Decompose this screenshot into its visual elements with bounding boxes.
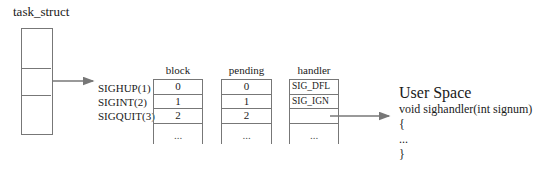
task-struct-box: [21, 28, 53, 135]
handler-cell-ellipsis: ...: [290, 123, 338, 144]
handler-cell: SIG_DFL: [290, 79, 338, 94]
handler-header: handler: [289, 64, 339, 76]
signal-label-sigquit: SIGQUIT(3): [98, 109, 155, 123]
task-struct-divider: [22, 68, 51, 69]
handler-cell: SIG_IGN: [290, 94, 338, 109]
signal-label-sigint: SIGINT(2): [98, 95, 155, 109]
pending-cell: 2: [222, 108, 271, 123]
code-line: ...: [399, 132, 532, 147]
code-line: void sighandler(int signum): [399, 102, 532, 117]
block-cell: 2: [154, 108, 202, 123]
signal-labels: SIGHUP(1) SIGINT(2) SIGQUIT(3): [98, 81, 155, 123]
pending-table: 0 1 2 ...: [221, 79, 272, 144]
block-table: 0 1 2 ...: [153, 79, 203, 144]
task-struct-divider: [22, 95, 51, 96]
block-cell: 0: [154, 79, 202, 94]
user-space-block: User Space void sighandler(int signum) {…: [399, 84, 532, 162]
pending-cell-ellipsis: ...: [222, 123, 271, 144]
signal-label-sighup: SIGHUP(1): [98, 81, 155, 95]
code-line: {: [399, 117, 532, 132]
block-cell-ellipsis: ...: [154, 123, 202, 144]
task-struct-title: task_struct: [13, 4, 69, 20]
user-space-title: User Space: [399, 84, 532, 102]
pending-header: pending: [221, 64, 272, 76]
pending-cell: 0: [222, 79, 271, 94]
block-cell: 1: [154, 94, 202, 109]
pending-cell: 1: [222, 94, 271, 109]
code-line: }: [399, 147, 532, 162]
handler-table: SIG_DFL SIG_IGN ...: [289, 79, 339, 144]
block-header: block: [153, 64, 203, 76]
handler-cell: [290, 108, 338, 123]
